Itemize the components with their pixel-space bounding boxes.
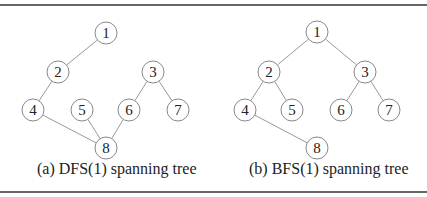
node-label: 3 bbox=[149, 64, 157, 80]
node-label: 7 bbox=[385, 102, 393, 118]
edge-2-5 bbox=[275, 81, 287, 100]
edge-3-6 bbox=[135, 81, 147, 100]
node-label: 8 bbox=[313, 140, 321, 156]
node-label: 5 bbox=[78, 102, 86, 118]
caption-dfs: (a) DFS(1) spanning tree bbox=[37, 160, 197, 178]
edge-2-4 bbox=[39, 81, 52, 101]
caption-bfs: (b) BFS(1) spanning tree bbox=[249, 160, 409, 178]
dfs-tree: 12345678 bbox=[22, 22, 189, 159]
node-label: 1 bbox=[313, 24, 321, 40]
edge-6-8 bbox=[112, 119, 124, 138]
node-label: 6 bbox=[125, 102, 133, 118]
node-label: 6 bbox=[337, 102, 345, 118]
edge-1-2 bbox=[277, 39, 308, 65]
edge-1-2 bbox=[67, 40, 98, 65]
edge-4-8 bbox=[255, 115, 308, 143]
node-label: 5 bbox=[288, 102, 296, 118]
node-label: 3 bbox=[361, 64, 369, 80]
edge-1-3 bbox=[325, 39, 356, 65]
node-label: 2 bbox=[54, 64, 62, 80]
node-label: 8 bbox=[102, 140, 110, 156]
edge-3-6 bbox=[347, 81, 359, 100]
node-label: 4 bbox=[29, 102, 37, 118]
edge-2-4 bbox=[251, 81, 263, 100]
node-label: 1 bbox=[102, 25, 110, 41]
edge-5-8 bbox=[88, 119, 100, 138]
bfs-tree: 12345678 bbox=[234, 21, 400, 159]
node-label: 7 bbox=[174, 102, 182, 118]
node-label: 2 bbox=[265, 64, 273, 80]
edge-3-7 bbox=[371, 81, 383, 100]
node-label: 4 bbox=[241, 102, 249, 118]
edge-3-7 bbox=[159, 81, 172, 101]
